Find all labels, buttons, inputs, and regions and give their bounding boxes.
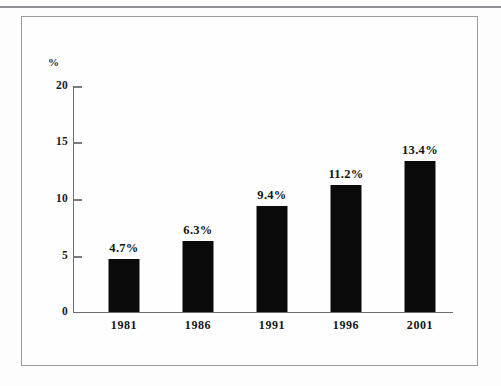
x-category-label: 1996 bbox=[309, 318, 383, 333]
bar-value-label: 13.4% bbox=[402, 143, 438, 158]
y-tick-label-0: 0 bbox=[40, 305, 68, 317]
y-tick-label-10: 10 bbox=[40, 192, 68, 204]
bar-group: 6.3% bbox=[161, 72, 235, 312]
bar-value-label: 6.3% bbox=[183, 223, 212, 238]
y-tick-label-5-wrap: 5 bbox=[36, 249, 68, 263]
y-tick-label-0-wrap: 0 bbox=[36, 305, 68, 319]
bar-group: 4.7% bbox=[87, 72, 161, 312]
y-tick-mark-15 bbox=[74, 142, 82, 144]
y-tick-label-10-wrap: 10 bbox=[36, 192, 68, 206]
y-tick-label-15: 15 bbox=[40, 135, 68, 147]
x-category-label: 1991 bbox=[235, 318, 309, 333]
y-tick-mark-20 bbox=[74, 86, 82, 88]
y-tick-label-20-wrap: 20 bbox=[36, 79, 68, 93]
x-category-label: 1981 bbox=[87, 318, 161, 333]
bar-rect bbox=[331, 185, 362, 312]
x-category-label: 1986 bbox=[161, 318, 235, 333]
y-tick-label-15-wrap: 15 bbox=[36, 135, 68, 149]
page-canvas: % 20 15 10 5 0 4.7% 6.3% bbox=[0, 0, 501, 386]
bar-value-label: 4.7% bbox=[109, 241, 138, 256]
bar-rect bbox=[183, 241, 214, 312]
bar-rect bbox=[257, 206, 288, 312]
bar-value-label: 9.4% bbox=[257, 188, 286, 203]
bar-value-label: 11.2% bbox=[328, 167, 363, 182]
bar-rect bbox=[109, 259, 140, 312]
x-category-label: 2001 bbox=[383, 318, 457, 333]
bar-chart: % 20 15 10 5 0 4.7% 6.3% bbox=[0, 0, 501, 386]
y-tick-label-20: 20 bbox=[40, 79, 68, 91]
y-tick-label-5: 5 bbox=[40, 249, 68, 261]
y-tick-mark-5 bbox=[74, 256, 82, 258]
y-axis-unit-label: % bbox=[48, 56, 59, 68]
y-tick-mark-10 bbox=[74, 199, 82, 201]
bar-group: 13.4% bbox=[383, 72, 457, 312]
bar-group: 11.2% bbox=[309, 72, 383, 312]
bar-rect bbox=[405, 161, 436, 312]
bar-group: 9.4% bbox=[235, 72, 309, 312]
x-axis-line bbox=[73, 312, 453, 313]
